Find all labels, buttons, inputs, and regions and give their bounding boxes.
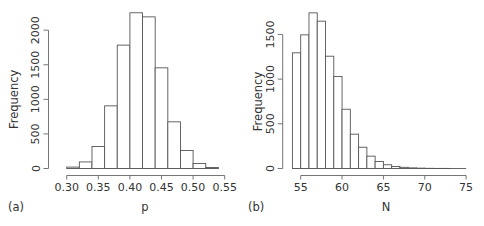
histogram-bar: [206, 167, 219, 168]
x-axis-title: N: [382, 200, 391, 214]
x-tick-label: 60: [335, 181, 349, 194]
x-tick-label: 0.50: [181, 181, 206, 194]
histogram-bar: [383, 165, 391, 169]
y-tick-label: 1500: [264, 20, 277, 48]
histogram-bar: [168, 122, 181, 169]
x-tick-label: 55: [294, 181, 308, 194]
histogram-bar: [105, 106, 118, 169]
x-tick-label: 0.55: [212, 181, 237, 194]
histogram-bar: [143, 17, 156, 169]
y-tick-label: 0: [30, 165, 43, 172]
y-axis-title: Frequency: [7, 69, 21, 129]
x-tick-label: 70: [418, 181, 432, 194]
histogram-bar: [193, 164, 206, 169]
x-tick-label: 75: [459, 181, 473, 194]
y-axis-title: Frequency: [251, 72, 265, 132]
histogram-bar: [408, 168, 416, 169]
histogram-canvas: 05001000150020000.300.350.400.450.500.55…: [0, 0, 484, 226]
x-tick-label: 0.45: [149, 181, 174, 194]
histogram-bar: [117, 45, 130, 168]
x-tick-label: 0.40: [118, 181, 143, 194]
histogram-bar: [67, 167, 80, 168]
histogram-bar: [130, 13, 143, 169]
panel-a-histogram-p: 05001000150020000.300.350.400.450.500.55…: [7, 13, 237, 214]
histogram-bar: [301, 35, 309, 169]
histogram-bar: [334, 77, 342, 169]
x-axis-title: p: [141, 200, 148, 214]
histogram-bar: [326, 56, 334, 168]
y-tick-label: 1500: [30, 51, 43, 79]
histogram-bar: [292, 53, 300, 169]
x-tick-label: 65: [376, 181, 390, 194]
histogram-bar: [350, 134, 358, 168]
histogram-bar: [92, 147, 105, 169]
x-tick-label: 0.35: [86, 181, 111, 194]
histogram-bar: [367, 156, 375, 168]
histogram-bar: [309, 13, 317, 169]
y-tick-label: 2000: [30, 16, 43, 44]
x-tick-label: 0.30: [54, 181, 79, 194]
panel-label: (b): [248, 200, 264, 214]
histogram-bar: [375, 162, 383, 169]
histogram-bar: [180, 151, 193, 169]
histogram-bar: [317, 21, 325, 168]
y-tick-label: 1000: [264, 65, 277, 93]
y-tick-label: 500: [30, 123, 43, 144]
y-tick-label: 1000: [30, 85, 43, 113]
histogram-bar: [392, 167, 400, 169]
panel-b-histogram-n: 0500100015005560657075FrequencyN(b): [248, 13, 473, 214]
panel-label: (a): [8, 200, 24, 214]
y-tick-label: 500: [264, 113, 277, 134]
histogram-bar: [359, 147, 367, 168]
histogram-bar: [155, 68, 168, 169]
histogram-bar: [400, 167, 408, 168]
histogram-bar: [79, 162, 92, 169]
y-tick-label: 0: [264, 165, 277, 172]
histogram-bar: [342, 109, 350, 168]
histogram-figure: 05001000150020000.300.350.400.450.500.55…: [0, 0, 484, 226]
